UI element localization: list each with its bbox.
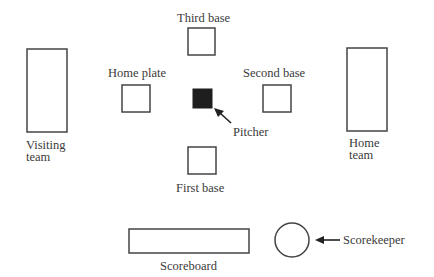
visiting-team-area xyxy=(27,49,67,132)
home-plate-label: Home plate xyxy=(108,66,166,80)
pitcher-square xyxy=(193,89,212,108)
scoreboard-label: Scoreboard xyxy=(160,259,218,273)
second-base-square xyxy=(263,85,291,112)
visiting-team-label-line2: team xyxy=(26,150,51,164)
scorekeeper-circle xyxy=(275,223,309,257)
pitcher-label: Pitcher xyxy=(233,125,269,139)
second-base-label: Second base xyxy=(243,66,306,80)
home-team-label-line2: team xyxy=(349,148,374,162)
pitcher-arrow-icon xyxy=(214,108,231,123)
scoreboard-rectangle xyxy=(129,229,249,253)
first-base-square xyxy=(188,147,216,174)
first-base-label: First base xyxy=(176,181,225,195)
classroom-baseball-layout-diagram: Visiting team Home team Third base Home … xyxy=(0,0,434,277)
scorekeeper-arrow-icon xyxy=(315,236,340,244)
home-team-area xyxy=(347,48,387,131)
third-base-label: Third base xyxy=(177,11,231,25)
home-plate-square xyxy=(122,85,150,112)
third-base-square xyxy=(188,28,215,55)
scorekeeper-label: Scorekeeper xyxy=(343,233,406,247)
